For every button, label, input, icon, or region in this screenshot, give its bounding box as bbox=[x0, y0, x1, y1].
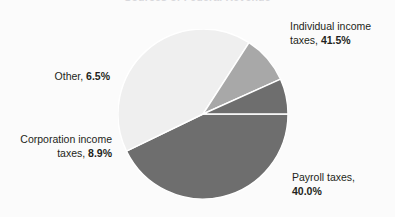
slice-label-corporation-name2: taxes, bbox=[57, 147, 88, 159]
slice-label-other: Other, 6.5% bbox=[0, 70, 110, 84]
slice-label-payroll-taxes: Payroll taxes, 40.0% bbox=[292, 171, 355, 198]
chart-title: Sources of Federal Revenue bbox=[0, 0, 395, 3]
pie-svg bbox=[118, 29, 288, 199]
slice-label-individual-name2: taxes, bbox=[290, 34, 321, 46]
slice-label-corporation-name: Corporation income bbox=[20, 133, 112, 145]
pie-chart-figure: Sources of Federal Revenue Individual in… bbox=[0, 0, 395, 217]
slice-label-individual-pct: 41.5% bbox=[321, 34, 351, 46]
slice-label-individual-name: Individual income bbox=[290, 20, 371, 32]
slice-label-other-pct: 6.5% bbox=[86, 70, 110, 82]
pie-chart-graphic bbox=[118, 29, 288, 199]
slice-label-other-name: Other, bbox=[55, 70, 87, 82]
slice-label-corporation-pct: 8.9% bbox=[88, 147, 112, 159]
slice-label-individual-income-taxes: Individual income taxes, 41.5% bbox=[290, 20, 371, 47]
slice-label-payroll-name: Payroll taxes, bbox=[292, 171, 355, 183]
slice-label-corporation-income-taxes: Corporation income taxes, 8.9% bbox=[0, 133, 112, 160]
slice-label-payroll-pct: 40.0% bbox=[292, 185, 322, 197]
